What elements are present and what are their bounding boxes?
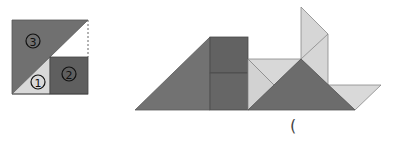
figure-canvas: 3 1 2 (0, 0, 411, 142)
svg-text:2: 2 (66, 69, 73, 82)
svg-text:1: 1 (35, 77, 42, 90)
right-composite-figure (135, 7, 381, 110)
left-square-figure: 3 1 2 (12, 20, 88, 94)
upper-square (210, 37, 248, 73)
svg-text:3: 3 (30, 36, 37, 49)
lower-square (210, 73, 248, 110)
large-left-triangle (135, 37, 210, 110)
answer-open-paren: ( (290, 116, 296, 135)
